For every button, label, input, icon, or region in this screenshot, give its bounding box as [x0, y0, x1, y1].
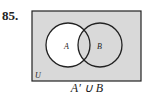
caption: A′ ∪ B [0, 81, 153, 95]
set-a-label: A [63, 42, 69, 51]
set-b-label: B [97, 42, 102, 51]
